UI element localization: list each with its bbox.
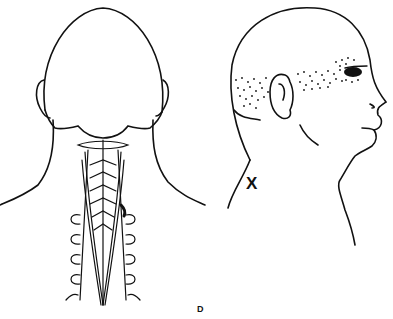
lateral-head xyxy=(228,8,386,245)
referred-pain-zone xyxy=(235,57,362,109)
figure-svg xyxy=(0,0,393,319)
marker-x-label: X xyxy=(246,174,257,194)
anatomical-figure: X D xyxy=(0,0,393,319)
cervical-spine xyxy=(66,140,140,305)
panel-label: D xyxy=(197,304,204,314)
